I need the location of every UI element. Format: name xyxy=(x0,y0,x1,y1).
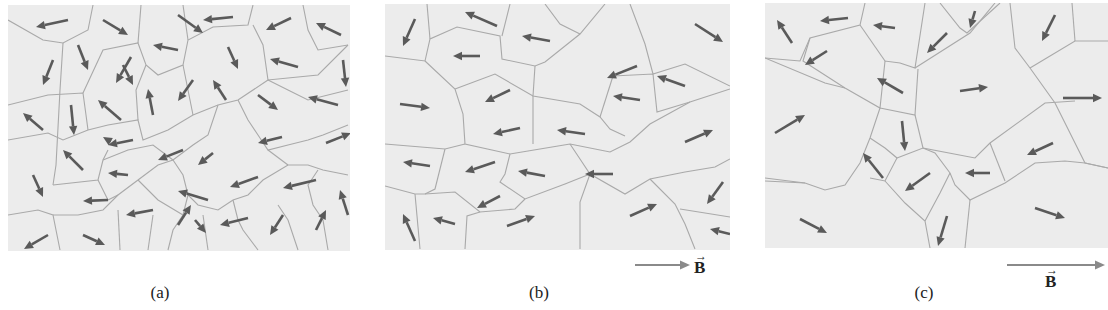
domain-wall xyxy=(268,150,288,165)
domain-wall xyxy=(630,4,730,86)
domain-wall xyxy=(600,76,613,117)
magnetic-moment-arrow-icon xyxy=(42,60,53,85)
vector-arrow-accent: → xyxy=(1046,263,1058,278)
magnetic-moment-arrow-icon xyxy=(433,216,455,224)
magnetic-moment-arrow-icon xyxy=(1027,143,1053,155)
magnetic-moment-arrow-icon xyxy=(522,33,550,41)
domain-wall xyxy=(427,4,430,39)
magnetic-moment-arrow-icon xyxy=(607,66,637,79)
field-label-b: → B xyxy=(694,258,705,278)
domain-wall xyxy=(415,194,420,249)
magnetic-moment-arrow-icon xyxy=(400,103,430,111)
magnetic-moment-arrow-icon xyxy=(339,190,348,215)
domain-wall xyxy=(53,105,218,215)
caption-a: (a) xyxy=(130,283,190,303)
magnetic-moment-arrow-icon xyxy=(108,139,133,147)
domain-wall xyxy=(173,160,348,210)
magnetic-moment-arrow-icon xyxy=(800,219,827,233)
magnetic-moment-arrow-icon xyxy=(777,20,792,43)
vector-arrow-accent: → xyxy=(695,249,707,264)
domain-wall xyxy=(680,209,730,217)
magnetic-moment-arrow-icon xyxy=(33,175,43,197)
domain-wall xyxy=(1030,41,1108,68)
domain-wall xyxy=(990,143,1005,181)
domain-wall xyxy=(253,25,348,80)
domain-panel-a xyxy=(8,5,350,251)
domain-panel-c xyxy=(765,3,1108,248)
magnetic-moment-arrow-icon xyxy=(153,43,178,51)
magnetic-moment-arrow-icon xyxy=(228,47,238,69)
magnetic-moment-arrow-icon xyxy=(258,137,282,145)
magnetic-moment-arrow-icon xyxy=(937,216,947,246)
domain-wall xyxy=(580,174,590,249)
magnetic-moment-arrow-icon xyxy=(477,196,500,208)
magnetic-moment-arrow-icon xyxy=(685,130,713,142)
domain-wall xyxy=(1010,3,1108,168)
magnetic-moment-arrow-icon xyxy=(98,100,121,120)
domain-wall xyxy=(385,144,465,149)
domain-panel-b xyxy=(385,4,730,250)
domain-wall xyxy=(533,66,535,144)
domain-wall xyxy=(915,3,995,68)
domain-wall xyxy=(425,149,445,194)
magnetic-moment-arrow-icon xyxy=(270,57,298,67)
magnetic-moment-arrow-icon xyxy=(126,209,153,217)
magnetic-moment-arrow-icon xyxy=(178,80,193,101)
domain-wall xyxy=(98,180,118,200)
domain-wall xyxy=(1072,3,1075,41)
magnetic-moment-arrow-icon xyxy=(707,182,723,204)
domain-wall xyxy=(650,179,695,249)
magnetic-moment-arrow-icon xyxy=(178,15,203,33)
domain-wall xyxy=(168,195,188,250)
magnetic-moment-arrow-icon xyxy=(230,177,258,188)
caption-c: (c) xyxy=(894,283,954,303)
magnetic-moment-arrow-icon xyxy=(485,90,510,102)
domain-wall xyxy=(965,200,970,248)
magnetic-moment-arrow-icon xyxy=(266,18,291,30)
domain-wall xyxy=(500,154,590,199)
domain-wall xyxy=(613,74,690,112)
domain-wall xyxy=(870,138,897,181)
domain-wall xyxy=(118,210,120,250)
magnetic-moment-arrow-icon xyxy=(695,24,723,42)
magnetic-moment-arrow-icon xyxy=(613,93,640,101)
magnetic-moment-arrow-icon xyxy=(960,84,988,92)
magnetic-moment-arrow-icon xyxy=(900,121,908,151)
domain-wall xyxy=(233,200,258,250)
domain-wall xyxy=(455,74,625,136)
magnetic-moment-arrow-icon xyxy=(69,105,77,135)
magnetic-moment-arrow-icon xyxy=(805,51,827,65)
magnetic-moment-arrow-icon xyxy=(24,235,48,249)
magnetic-moment-arrow-icon xyxy=(63,150,83,170)
magnetic-moment-arrow-icon xyxy=(507,215,535,226)
domain-wall xyxy=(765,3,865,61)
magnetic-moment-arrow-icon xyxy=(453,52,480,60)
magnetic-moment-arrow-icon xyxy=(465,12,497,26)
domain-wall xyxy=(138,180,183,215)
caption-b: (b) xyxy=(509,283,569,303)
domain-wall xyxy=(385,186,525,212)
domain-wall xyxy=(425,61,730,154)
magnetic-moment-arrow-icon xyxy=(178,190,208,200)
magnetic-moment-arrow-icon xyxy=(258,95,278,110)
magnetic-moment-arrow-icon xyxy=(905,173,930,191)
magnetic-moment-arrow-icon xyxy=(341,60,349,87)
domain-wall xyxy=(765,108,880,190)
domain-wall xyxy=(925,173,950,221)
magnetic-moment-arrow-icon xyxy=(465,162,495,173)
magnetic-moment-arrow-icon xyxy=(518,169,545,177)
domain-wall xyxy=(148,215,153,250)
magnetic-moment-arrow-icon xyxy=(877,78,903,93)
magnetic-moment-arrow-icon xyxy=(820,16,848,24)
magnetic-moment-arrow-icon xyxy=(403,19,415,46)
magnetic-moment-arrow-icon xyxy=(493,128,520,136)
magnetic-moment-arrow-icon xyxy=(1042,15,1055,41)
domain-wall xyxy=(136,65,146,120)
magnetic-moment-arrow-icon xyxy=(203,15,233,23)
magnetic-moment-arrow-icon xyxy=(83,235,105,245)
magnetic-moment-arrow-icon xyxy=(326,132,350,143)
magnetic-moment-arrow-icon xyxy=(316,23,341,35)
magnetic-moment-arrow-icon xyxy=(213,80,226,100)
magnetic-moment-arrow-icon xyxy=(270,215,283,235)
field-label-c: → B xyxy=(1045,272,1056,292)
